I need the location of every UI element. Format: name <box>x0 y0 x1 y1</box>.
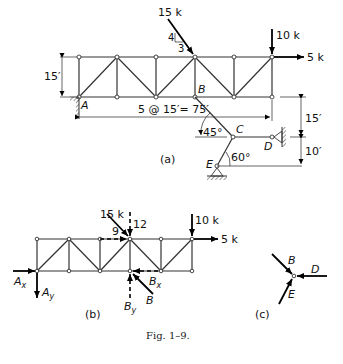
load-5k-label-b: 5 k <box>221 233 238 246</box>
load-10k-label-a: 10 k <box>276 29 300 42</box>
height-label: 15′ <box>44 70 61 83</box>
reaction-by-label: By <box>124 300 137 315</box>
node-label-c: C <box>236 123 244 136</box>
panel-b-label: (b) <box>85 308 101 321</box>
joint-force-d-label: D <box>311 263 319 276</box>
load-15k-label-a: 15 k <box>158 6 182 19</box>
load-10k-label-b: 10 k <box>195 214 219 227</box>
height-dimension <box>60 57 77 97</box>
support-a-wall <box>70 97 79 119</box>
truss-b <box>35 237 194 273</box>
slope-rise: 4 <box>168 32 174 43</box>
load-5k-label-a: 5 k <box>307 51 324 64</box>
panel-c-label: (c) <box>255 308 270 321</box>
node-label-d: D <box>264 140 272 153</box>
figure-caption: Fig. 1–9. <box>146 330 190 341</box>
slope-run: 3 <box>178 43 184 54</box>
panel-a-label: (a) <box>160 153 175 166</box>
component-9-label: 9 <box>112 225 119 238</box>
joint-c-diagram <box>272 254 327 304</box>
truss-a <box>77 55 274 99</box>
node-label-e: E <box>206 158 213 171</box>
reaction-ax-label: Ax <box>13 275 27 290</box>
angle-arc-60 <box>226 152 230 166</box>
node-label-b: B <box>198 83 206 96</box>
angle-45-label: 45° <box>203 126 223 139</box>
node-label-a: A <box>80 99 89 112</box>
angle-60-label: 60° <box>231 151 251 164</box>
reaction-b-label: B <box>146 294 154 307</box>
dim-10-label: 10′ <box>305 145 322 158</box>
component-12-label: 12 <box>133 218 147 231</box>
reaction-ay-label: Ay <box>41 286 55 301</box>
reaction-bx-label: Bx <box>149 275 162 290</box>
dim-15-label: 15′ <box>305 112 322 125</box>
figure-canvas: A 15′ 5 @ 15′= 75′ 15 k 4 3 10 k 5 k B C… <box>0 0 343 364</box>
load-15k-label-b: 15 k <box>100 208 124 221</box>
joint-force-e-label: E <box>288 288 295 301</box>
joint-force-b-label: B <box>288 254 296 267</box>
support-d-pin <box>274 127 286 147</box>
span-label: 5 @ 15′= 75′ <box>138 103 209 116</box>
